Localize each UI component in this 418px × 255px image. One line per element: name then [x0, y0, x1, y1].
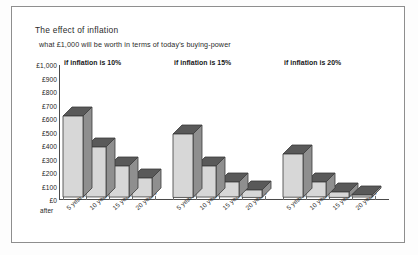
chart-frame: The effect of inflation what £1,000 will…: [11, 6, 405, 243]
plot-area: £1,000£900£800£700£600£500£400£300£200£1…: [59, 65, 389, 200]
y-axis-tick-label: £500: [42, 129, 57, 136]
chart-page: The effect of inflation what £1,000 will…: [0, 0, 418, 255]
y-axis-tick-label: £200: [42, 170, 57, 177]
bar-3d: [283, 156, 303, 199]
y-axis-line: [59, 65, 60, 200]
y-axis-tick-label: £300: [42, 156, 57, 163]
y-axis-tick-label: £400: [42, 143, 57, 150]
bar-3d: [173, 136, 193, 199]
y-axis-labels: £1,000£900£800£700£600£500£400£300£200£1…: [17, 65, 57, 200]
chart-title: The effect of inflation: [35, 25, 118, 35]
y-axis-tick-label: £0: [49, 197, 57, 204]
y-axis-tick-label: £100: [42, 183, 57, 190]
y-axis-tick-label: £1,000: [36, 62, 57, 69]
y-axis-tick-label: £800: [42, 89, 57, 96]
y-axis-tick-label: £900: [42, 75, 57, 82]
y-axis-tick-label: £600: [42, 116, 57, 123]
group-header: if inflation is 10%: [64, 59, 121, 66]
y-axis-tick-label: £700: [42, 102, 57, 109]
after-label: after: [40, 207, 53, 214]
chart-inner: The effect of inflation what £1,000 will…: [12, 7, 404, 242]
bar-3d: [63, 118, 83, 199]
chart-subtitle: what £1,000 will be worth in terms of to…: [39, 40, 231, 49]
group-header: if inflation is 20%: [284, 59, 341, 66]
group-header: if inflation is 15%: [174, 59, 231, 66]
